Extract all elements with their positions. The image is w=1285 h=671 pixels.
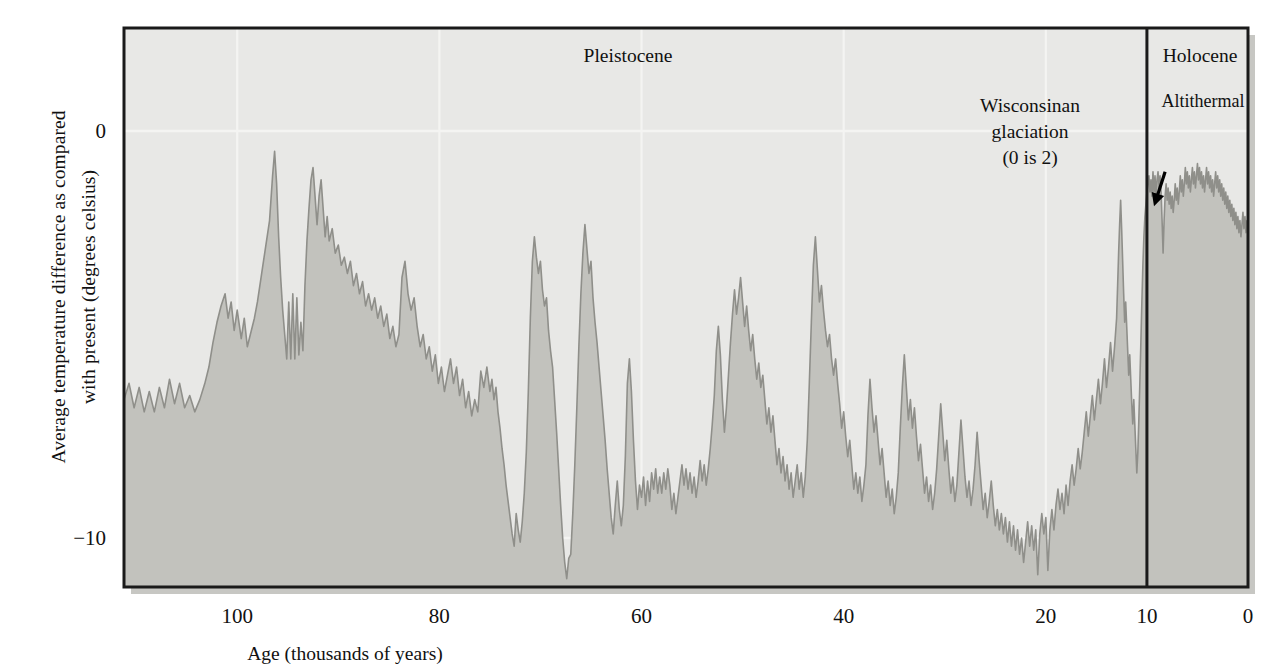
annotation-wisconsinan-glaciation: Wisconsinan glaciation (0 is 2) [930, 93, 1130, 171]
annotation-wisconsinan-line3: (0 is 2) [930, 145, 1130, 171]
x-tick-label-10: 10 [1117, 604, 1177, 629]
annotation-pleistocene: Pleistocene [528, 43, 728, 69]
annotation-holocene: Holocene [1152, 43, 1248, 69]
annotation-wisconsinan-line1: Wisconsinan [930, 93, 1130, 119]
x-tick-label-20: 20 [1016, 604, 1076, 629]
x-tick-label-80: 80 [409, 604, 469, 629]
annotation-altithermal: Altithermal [1148, 88, 1258, 114]
x-tick-label-100: 100 [207, 604, 267, 629]
x-tick-label-40: 40 [814, 604, 874, 629]
annotation-wisconsinan-line2: glaciation [930, 119, 1130, 145]
paleoclimate-figure: Average temperature difference as compar… [0, 0, 1285, 671]
y-tick-label-0: 0 [46, 119, 106, 144]
x-tick-label-60: 60 [612, 604, 672, 629]
y-tick-label-10: −10 [46, 526, 106, 551]
x-axis-title: Age (thousands of years) [0, 643, 1285, 665]
x-tick-label-0: 0 [1218, 604, 1278, 629]
x-axis-title-text: Age (thousands of years) [247, 643, 443, 665]
